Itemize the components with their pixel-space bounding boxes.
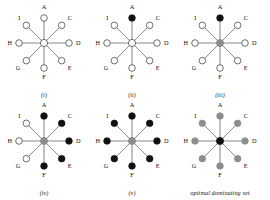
graph-node-d[interactable] xyxy=(242,138,249,145)
node-label-c: C xyxy=(68,112,72,119)
node-label-c: C xyxy=(68,14,72,21)
node-label-d: D xyxy=(252,137,257,144)
panel-caption-ii: (ii) xyxy=(88,91,176,99)
graph-node-f[interactable] xyxy=(217,65,224,72)
graph-node-c[interactable] xyxy=(234,22,241,29)
star-graph-svg: ACDEFGHI xyxy=(88,100,176,184)
graph-node-d[interactable] xyxy=(66,40,73,47)
graph-node-i[interactable] xyxy=(111,22,118,29)
node-label-h: H xyxy=(183,137,188,144)
graph-node-d[interactable] xyxy=(242,40,249,47)
graph-panel-iv: ACDEFGHI (iv) xyxy=(0,100,88,200)
graph-node-e[interactable] xyxy=(146,155,153,162)
node-label-e: E xyxy=(244,162,248,169)
graph-node-a[interactable] xyxy=(129,15,136,22)
star-graph-iii: ACDEFGHI xyxy=(176,2,264,86)
graph-node-e[interactable] xyxy=(58,155,65,162)
node-label-a: A xyxy=(130,3,135,10)
node-label-i: I xyxy=(194,14,196,21)
graph-node-g[interactable] xyxy=(111,155,118,162)
graph-node-center[interactable] xyxy=(40,39,47,46)
node-label-c: C xyxy=(244,14,248,21)
panel-caption-optimal: optimal dominating set xyxy=(176,189,264,197)
node-label-f: F xyxy=(130,73,134,80)
node-label-h: H xyxy=(95,39,100,46)
node-label-e: E xyxy=(244,64,248,71)
node-label-f: F xyxy=(218,171,222,178)
node-label-d: D xyxy=(252,39,257,46)
node-label-d: D xyxy=(164,137,169,144)
node-label-a: A xyxy=(130,101,135,108)
node-label-g: G xyxy=(104,64,109,71)
graph-node-h[interactable] xyxy=(104,138,111,145)
graph-node-g[interactable] xyxy=(199,155,206,162)
graph-node-a[interactable] xyxy=(41,15,48,22)
node-label-g: G xyxy=(192,64,197,71)
node-label-g: G xyxy=(16,64,21,71)
graph-node-a[interactable] xyxy=(129,113,136,120)
graph-node-i[interactable] xyxy=(111,120,118,127)
graph-node-g[interactable] xyxy=(23,155,30,162)
graph-node-f[interactable] xyxy=(41,163,48,170)
graph-node-a[interactable] xyxy=(217,15,224,22)
graph-panel-optimal: ACDEFGHI optimal dominating set xyxy=(176,100,264,200)
graph-panel-iii: ACDEFGHI (iii) xyxy=(176,2,264,102)
graph-node-center[interactable] xyxy=(40,137,47,144)
graph-node-e[interactable] xyxy=(58,57,65,64)
node-label-a: A xyxy=(42,101,47,108)
graph-node-g[interactable] xyxy=(111,57,118,64)
node-label-g: G xyxy=(104,162,109,169)
graph-node-center[interactable] xyxy=(128,39,135,46)
graph-node-f[interactable] xyxy=(129,65,136,72)
node-label-h: H xyxy=(183,39,188,46)
graph-node-i[interactable] xyxy=(23,22,30,29)
graph-node-c[interactable] xyxy=(146,120,153,127)
panel-caption-iii: (iii) xyxy=(176,91,264,99)
graph-node-a[interactable] xyxy=(41,113,48,120)
node-label-c: C xyxy=(156,112,160,119)
graph-node-a[interactable] xyxy=(217,113,224,120)
graph-node-g[interactable] xyxy=(23,57,30,64)
graph-node-d[interactable] xyxy=(154,138,161,145)
node-label-a: A xyxy=(218,3,223,10)
graph-node-f[interactable] xyxy=(217,163,224,170)
graph-node-d[interactable] xyxy=(154,40,161,47)
graph-node-i[interactable] xyxy=(199,120,206,127)
graph-node-c[interactable] xyxy=(58,120,65,127)
graph-node-g[interactable] xyxy=(199,57,206,64)
star-graph-i: ACDEFGHI xyxy=(0,2,88,86)
node-label-c: C xyxy=(156,14,160,21)
graph-node-h[interactable] xyxy=(104,40,111,47)
star-graph-svg: ACDEFGHI xyxy=(176,100,264,184)
star-graph-svg: ACDEFGHI xyxy=(88,2,176,86)
node-label-d: D xyxy=(164,39,169,46)
graph-node-center[interactable] xyxy=(216,137,223,144)
graph-node-e[interactable] xyxy=(234,57,241,64)
graph-panel-v: ACDEFGHI (v) xyxy=(88,100,176,200)
graph-node-h[interactable] xyxy=(192,138,199,145)
graph-node-f[interactable] xyxy=(41,65,48,72)
graph-node-center[interactable] xyxy=(128,137,135,144)
graph-node-c[interactable] xyxy=(58,22,65,29)
graph-node-e[interactable] xyxy=(146,57,153,64)
graph-node-e[interactable] xyxy=(234,155,241,162)
node-label-i: I xyxy=(194,112,196,119)
star-graph-svg: ACDEFGHI xyxy=(0,100,88,184)
graph-node-f[interactable] xyxy=(129,163,136,170)
graph-node-i[interactable] xyxy=(23,120,30,127)
graph-node-h[interactable] xyxy=(16,138,23,145)
graph-node-d[interactable] xyxy=(66,138,73,145)
graph-node-center[interactable] xyxy=(216,39,223,46)
node-label-e: E xyxy=(156,162,160,169)
graph-node-c[interactable] xyxy=(146,22,153,29)
node-label-i: I xyxy=(106,14,108,21)
panel-caption-v: (v) xyxy=(88,189,176,197)
graph-node-h[interactable] xyxy=(16,40,23,47)
node-label-i: I xyxy=(18,14,20,21)
node-label-e: E xyxy=(156,64,160,71)
node-label-e: E xyxy=(68,64,72,71)
star-graph-optimal: ACDEFGHI xyxy=(176,100,264,184)
graph-node-c[interactable] xyxy=(234,120,241,127)
graph-node-i[interactable] xyxy=(199,22,206,29)
graph-node-h[interactable] xyxy=(192,40,199,47)
